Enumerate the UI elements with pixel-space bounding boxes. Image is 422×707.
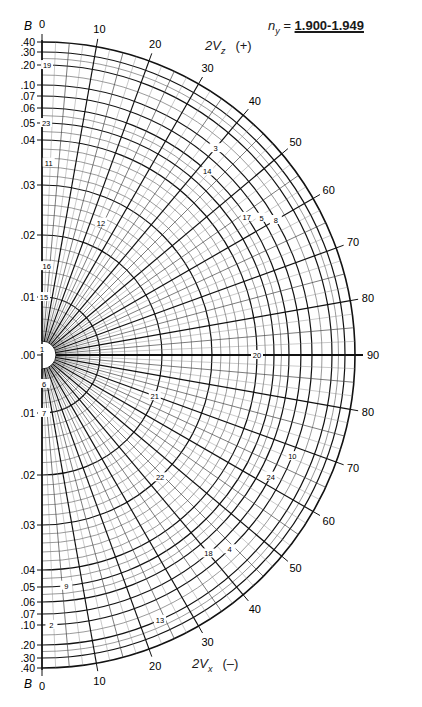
b-axis-name: B bbox=[24, 19, 32, 33]
specimen-label: 1 bbox=[36, 344, 48, 354]
b-tick-label: .30 bbox=[20, 46, 35, 58]
angle-tick-label: 20 bbox=[149, 38, 161, 50]
b-tick-label: .06 bbox=[20, 596, 35, 608]
svg-text:15: 15 bbox=[40, 293, 48, 302]
svg-text:3: 3 bbox=[213, 144, 217, 153]
svg-text:1: 1 bbox=[40, 345, 44, 354]
b-axis-name: B bbox=[24, 677, 32, 691]
specimen-label: 22 bbox=[154, 472, 166, 482]
specimen-label: 19 bbox=[41, 60, 53, 70]
specimen-label: 15 bbox=[38, 292, 50, 302]
svg-text:20: 20 bbox=[253, 351, 261, 360]
angle-tick-label: 70 bbox=[347, 462, 359, 474]
specimen-label: 11 bbox=[43, 158, 55, 168]
specimen-label: 3 bbox=[210, 143, 222, 153]
upper-sign: (+) bbox=[235, 38, 251, 53]
angle-tick-label: 0 bbox=[39, 18, 45, 30]
angle-tick-label: 40 bbox=[249, 603, 261, 615]
title-value: 1.900-1.949 bbox=[295, 18, 364, 33]
svg-text:9: 9 bbox=[64, 582, 68, 591]
b-tick-label: .07 bbox=[20, 90, 35, 102]
b-tick-label: .20 bbox=[20, 639, 35, 651]
b-tick-label: .04 bbox=[20, 564, 35, 576]
svg-text:19: 19 bbox=[43, 61, 51, 70]
specimen-label: 18 bbox=[202, 548, 214, 558]
svg-text:23: 23 bbox=[42, 119, 50, 128]
b-tick-label: .30 bbox=[20, 652, 35, 664]
upper-axis-name: 2Vz(+) bbox=[205, 38, 252, 56]
angle-tick-label: 10 bbox=[93, 675, 105, 687]
specimen-label: 23 bbox=[40, 118, 52, 128]
b-tick-label: .05 bbox=[20, 117, 35, 129]
angle-tick-label: 60 bbox=[323, 515, 335, 527]
specimen-label: 17 bbox=[241, 212, 253, 222]
specimen-label: 4 bbox=[224, 544, 236, 554]
specimen-label: 2 bbox=[45, 620, 57, 630]
specimen-label: 21 bbox=[149, 391, 161, 401]
angle-tick-label: 30 bbox=[201, 62, 213, 74]
specimen-label: 5 bbox=[256, 213, 268, 223]
b-tick-label: .20 bbox=[20, 59, 35, 71]
b-tick-label: .02 bbox=[20, 469, 35, 481]
chart-grid bbox=[42, 42, 363, 668]
specimen-label: 14 bbox=[201, 166, 213, 176]
angle-tick-label: 80 bbox=[362, 406, 374, 418]
svg-text:17: 17 bbox=[243, 213, 251, 222]
b-tick-label: .05 bbox=[20, 581, 35, 593]
specimen-label: 12 bbox=[95, 218, 107, 228]
svg-text:24: 24 bbox=[267, 473, 275, 482]
angle-tick-label: 40 bbox=[249, 95, 261, 107]
svg-text:11: 11 bbox=[45, 159, 53, 168]
specimen-label: 16 bbox=[41, 261, 53, 271]
angle-tick-label: 30 bbox=[201, 636, 213, 648]
b-tick-label: .04 bbox=[20, 134, 35, 146]
angle-tick-label: 90 bbox=[367, 349, 379, 361]
angle-tick-label: 50 bbox=[289, 136, 301, 148]
svg-text:10: 10 bbox=[288, 452, 296, 461]
svg-text:12: 12 bbox=[97, 219, 105, 228]
angle-tick-label: 0 bbox=[39, 680, 45, 692]
chart-title: ny = 1.900-1.949 bbox=[268, 18, 364, 36]
angle-tick-label: 60 bbox=[323, 184, 335, 196]
svg-text:4: 4 bbox=[227, 545, 231, 554]
b-tick-label: .10 bbox=[20, 619, 35, 631]
b-tick-label: .01 bbox=[20, 291, 35, 303]
b-tick-label: .03 bbox=[20, 179, 35, 191]
svg-text:7: 7 bbox=[42, 409, 46, 418]
svg-text:8: 8 bbox=[274, 216, 278, 225]
svg-text:22: 22 bbox=[156, 473, 164, 482]
specimen-label: 24 bbox=[265, 472, 277, 482]
polar-chart: .40.30.20.10.07.06.05.04.03.02.01.00.40.… bbox=[0, 0, 422, 707]
lower-sign: (–) bbox=[222, 656, 238, 671]
b-tick-label: .00 bbox=[20, 349, 35, 361]
svg-text:21: 21 bbox=[151, 392, 159, 401]
b-tick-label: .03 bbox=[20, 519, 35, 531]
svg-text:16: 16 bbox=[42, 262, 50, 271]
title-equals: = bbox=[280, 18, 295, 33]
angle-tick-label: 10 bbox=[93, 23, 105, 35]
svg-text:5: 5 bbox=[260, 214, 264, 223]
specimen-label: 8 bbox=[270, 215, 282, 225]
angle-tick-label: 80 bbox=[362, 292, 374, 304]
specimen-label: 9 bbox=[60, 581, 72, 591]
specimen-label: 6 bbox=[38, 379, 50, 389]
b-tick-label: .01 bbox=[20, 407, 35, 419]
specimen-label: 7 bbox=[38, 408, 50, 418]
svg-text:2: 2 bbox=[49, 621, 53, 630]
b-tick-label: .06 bbox=[20, 102, 35, 114]
svg-text:14: 14 bbox=[203, 167, 211, 176]
b-tick-label: .07 bbox=[20, 608, 35, 620]
specimen-label: 13 bbox=[154, 615, 166, 625]
angle-tick-label: 50 bbox=[289, 562, 301, 574]
specimen-label: 10 bbox=[286, 451, 298, 461]
specimen-label: 20 bbox=[251, 350, 263, 360]
lower-axis-name: 2Vx(–) bbox=[192, 656, 238, 674]
b-tick-label: .02 bbox=[20, 229, 35, 241]
angle-tick-label: 70 bbox=[347, 236, 359, 248]
angle-tick-label: 20 bbox=[149, 660, 161, 672]
svg-text:6: 6 bbox=[42, 380, 46, 389]
svg-text:13: 13 bbox=[156, 616, 164, 625]
svg-text:18: 18 bbox=[204, 549, 212, 558]
